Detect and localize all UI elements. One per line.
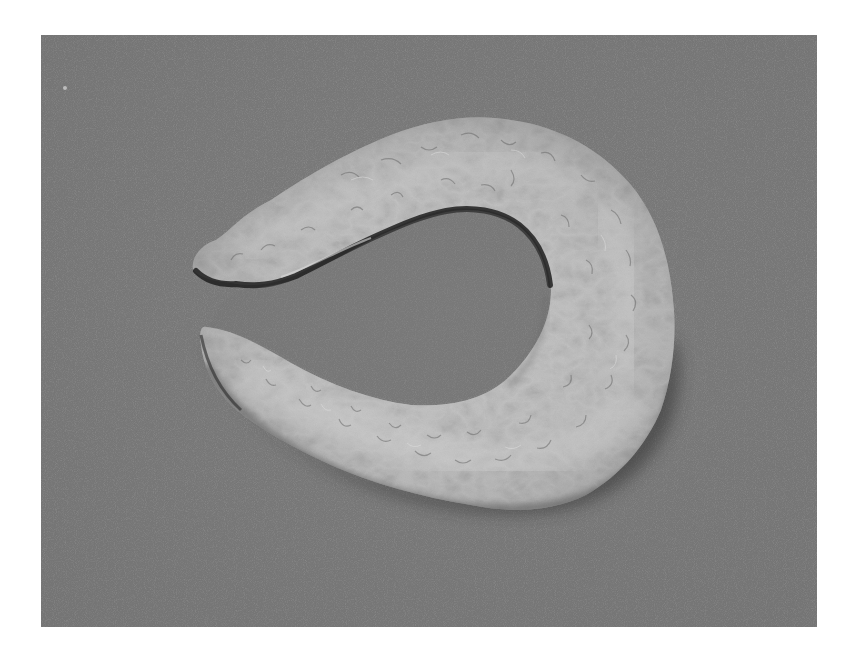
page: Grayscale photograph of a C-shaped (hors…	[0, 0, 859, 660]
dust-speck	[63, 86, 67, 90]
specimen-photo-svg	[41, 35, 817, 627]
photograph: Grayscale photograph of a C-shaped (hors…	[41, 35, 817, 627]
